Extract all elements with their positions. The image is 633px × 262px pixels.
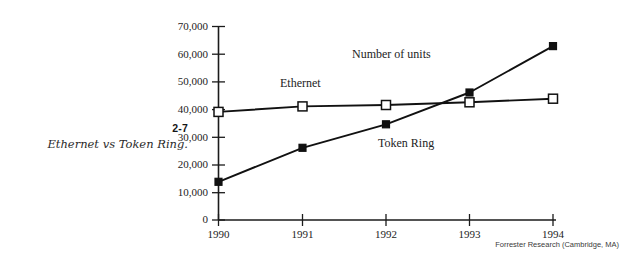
y-tick-label: 50,000 bbox=[150, 75, 208, 87]
y-tick-label: 40,000 bbox=[150, 103, 208, 115]
series-token-ring bbox=[215, 43, 557, 186]
y-tick-label: 60,000 bbox=[150, 48, 208, 60]
y-tick-label: 10,000 bbox=[150, 186, 208, 198]
y-tick-label: 30,000 bbox=[150, 131, 208, 143]
y-tick-label: 20,000 bbox=[150, 158, 208, 170]
x-tick-label: 1994 bbox=[523, 228, 583, 240]
series-ethernet bbox=[214, 94, 558, 116]
series-label-token-ring: Token Ring bbox=[378, 136, 434, 151]
series-label-ethernet: Ethernet bbox=[280, 76, 321, 91]
y-tick-label: 0 bbox=[150, 213, 208, 225]
x-tick-label: 1993 bbox=[440, 228, 500, 240]
x-tick-label: 1990 bbox=[189, 228, 249, 240]
line-chart-canvas bbox=[0, 0, 633, 262]
figure-root: 2-7 Ethernet vs Token Ring. bbox=[0, 0, 633, 262]
y-tick-label: 70,000 bbox=[150, 20, 208, 32]
source-note: Forrester Research (Cambridge, MA) bbox=[495, 240, 619, 249]
x-tick-label: 1992 bbox=[356, 228, 416, 240]
x-tick-label: 1991 bbox=[273, 228, 333, 240]
chart-title-annotation: Number of units bbox=[352, 47, 431, 62]
